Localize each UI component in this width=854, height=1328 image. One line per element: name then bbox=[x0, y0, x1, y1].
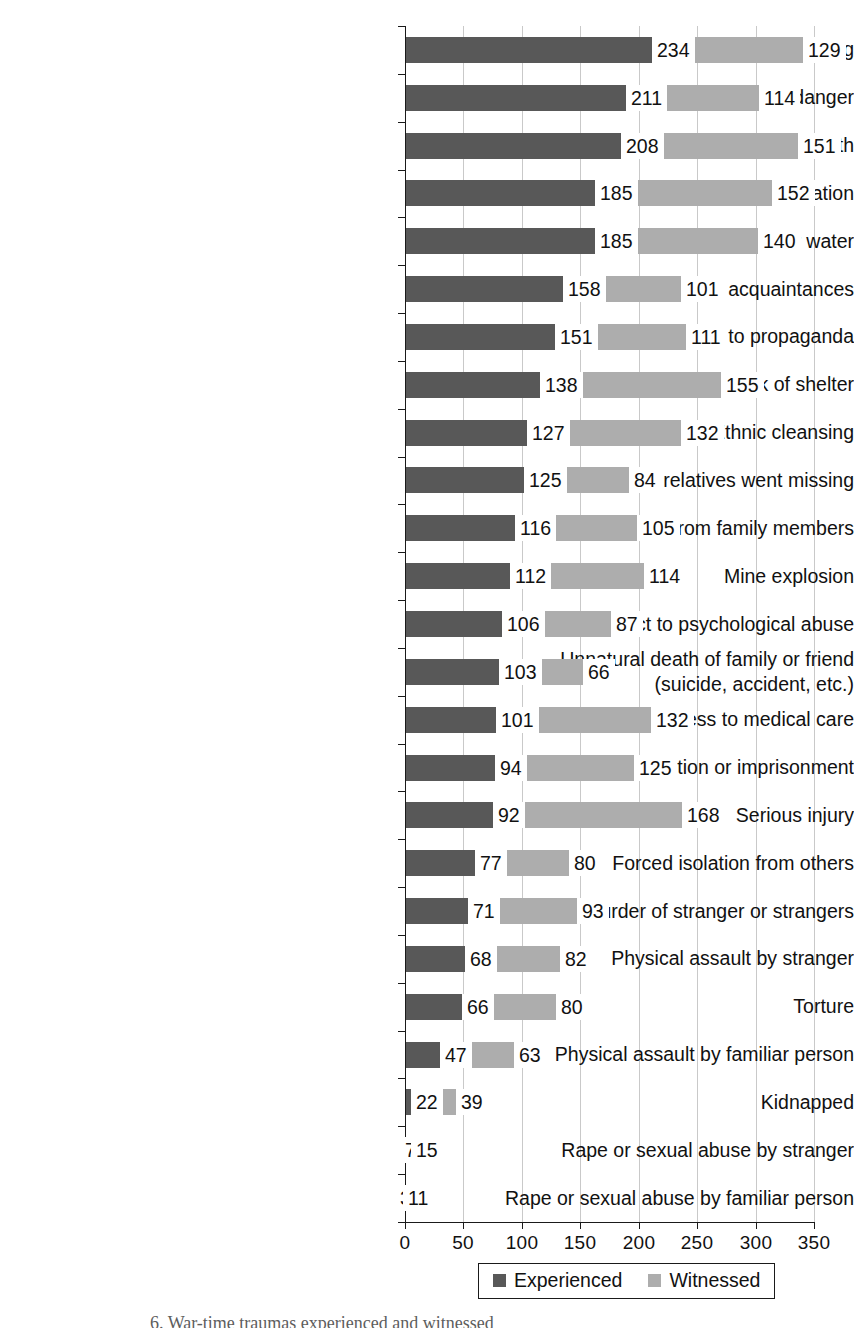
bar-segment-experienced bbox=[406, 180, 622, 206]
bar-value-label-witnessed: 140 bbox=[758, 228, 801, 254]
bar-value-label-experienced: 68 bbox=[465, 946, 497, 972]
bar-value-label-witnessed: 93 bbox=[577, 898, 609, 924]
x-axis-tick bbox=[814, 1222, 815, 1229]
x-axis-tick bbox=[639, 1222, 640, 1229]
x-axis-tick bbox=[756, 1222, 757, 1229]
bar-value-label-witnessed: 39 bbox=[456, 1089, 488, 1115]
x-axis-spine bbox=[405, 1222, 815, 1223]
bar-value-label-experienced: 138 bbox=[540, 372, 583, 398]
bar-value-label-experienced: 71 bbox=[468, 898, 500, 924]
bar-value-label-experienced: 116 bbox=[515, 515, 556, 541]
x-axis-tick bbox=[463, 1222, 464, 1229]
bar-value-label-witnessed: 11 bbox=[403, 1185, 433, 1211]
x-axis-tick-label: 350 bbox=[798, 1232, 831, 1254]
y-axis-tick bbox=[398, 839, 405, 840]
x-axis-tick-label: 50 bbox=[452, 1232, 474, 1254]
bar-value-label-witnessed: 132 bbox=[651, 707, 694, 733]
bar-value-label-experienced: 94 bbox=[495, 755, 527, 781]
y-axis-tick bbox=[398, 217, 405, 218]
bar-row-label: Rape or sexual abuse by familiar person bbox=[456, 1186, 854, 1211]
bar-value-label-experienced: 112 bbox=[510, 563, 551, 589]
bar-segment-experienced bbox=[406, 37, 679, 63]
y-axis-tick bbox=[398, 1078, 405, 1079]
x-axis-tick bbox=[522, 1222, 523, 1229]
x-axis-tick-label: 250 bbox=[681, 1232, 714, 1254]
figure-caption: 6. War-time traumas experienced and witn… bbox=[150, 1313, 750, 1328]
bar-value-label-experienced: 22 bbox=[411, 1089, 443, 1115]
bar-value-label-experienced: 101 bbox=[496, 707, 539, 733]
bar-segment-experienced bbox=[406, 133, 649, 159]
x-axis-tick-label: 0 bbox=[400, 1232, 411, 1254]
y-axis-tick bbox=[398, 265, 405, 266]
x-axis-tick-label: 300 bbox=[740, 1232, 773, 1254]
bar-value-label-witnessed: 82 bbox=[560, 946, 592, 972]
y-axis-tick bbox=[398, 1031, 405, 1032]
y-axis-tick bbox=[398, 122, 405, 123]
y-axis-tick bbox=[398, 170, 405, 171]
bar-value-label-witnessed: 87 bbox=[611, 611, 643, 637]
bar-value-label-experienced: 103 bbox=[499, 659, 542, 685]
bar-value-label-witnessed: 129 bbox=[803, 37, 846, 63]
bar-value-label-witnessed: 114 bbox=[759, 85, 800, 111]
bar-value-label-witnessed: 125 bbox=[634, 755, 677, 781]
y-axis-tick bbox=[398, 552, 405, 553]
y-axis-tick bbox=[398, 935, 405, 936]
legend-swatch-icon bbox=[648, 1274, 661, 1287]
bar-value-label-witnessed: 80 bbox=[569, 850, 601, 876]
bar-value-label-experienced: 47 bbox=[440, 1042, 472, 1068]
y-axis-tick bbox=[398, 983, 405, 984]
bar-segment-experienced bbox=[406, 85, 653, 111]
bar-value-label-witnessed: 15 bbox=[411, 1137, 443, 1163]
legend-entry: Experienced bbox=[493, 1269, 622, 1292]
y-axis-tick bbox=[398, 648, 405, 649]
legend-swatch-icon bbox=[493, 1274, 506, 1287]
x-axis-tick bbox=[697, 1222, 698, 1229]
y-axis-tick bbox=[398, 791, 405, 792]
bar-value-label-witnessed: 84 bbox=[629, 467, 661, 493]
bar-value-label-experienced: 211 bbox=[626, 85, 667, 111]
bar-value-label-experienced: 158 bbox=[563, 276, 606, 302]
x-axis-tick bbox=[580, 1222, 581, 1229]
chart-legend: ExperiencedWitnessed bbox=[478, 1263, 775, 1299]
bar-value-label-witnessed: 155 bbox=[721, 372, 764, 398]
bar-value-label-experienced: 92 bbox=[493, 802, 525, 828]
bar-value-label-experienced: 66 bbox=[462, 994, 494, 1020]
bar-value-label-experienced: 127 bbox=[527, 420, 570, 446]
bar-segment-witnessed bbox=[514, 802, 710, 828]
x-axis-tick-label: 200 bbox=[623, 1232, 656, 1254]
legend-label: Witnessed bbox=[669, 1269, 760, 1292]
y-axis-tick bbox=[398, 696, 405, 697]
y-axis-tick bbox=[398, 1222, 405, 1223]
bar-value-label-witnessed: 168 bbox=[682, 802, 725, 828]
y-axis-tick bbox=[398, 457, 405, 458]
bar-segment-experienced bbox=[406, 228, 622, 254]
bar-value-label-witnessed: 105 bbox=[637, 515, 680, 541]
bar-value-label-witnessed: 114 bbox=[644, 563, 685, 589]
bar-value-label-witnessed: 132 bbox=[681, 420, 724, 446]
y-axis-tick bbox=[398, 313, 405, 314]
y-axis-tick bbox=[398, 744, 405, 745]
y-axis-tick bbox=[398, 26, 405, 27]
bar-row-label: Rape or sexual abuse by stranger bbox=[456, 1138, 854, 1163]
bar-value-label-witnessed: 152 bbox=[772, 180, 815, 206]
y-axis-tick bbox=[398, 361, 405, 362]
bar-value-label-experienced: 185 bbox=[595, 180, 638, 206]
y-axis-tick bbox=[398, 504, 405, 505]
bar-value-label-experienced: 208 bbox=[621, 133, 664, 159]
y-axis-tick bbox=[398, 1126, 405, 1127]
x-axis-tick-label: 100 bbox=[506, 1232, 539, 1254]
bar-value-label-witnessed: 66 bbox=[583, 659, 615, 685]
x-axis-tick-label: 150 bbox=[564, 1232, 597, 1254]
bar-value-label-experienced: 106 bbox=[502, 611, 545, 637]
bar-value-label-experienced: 151 bbox=[555, 324, 598, 350]
legend-entry: Witnessed bbox=[648, 1269, 760, 1292]
x-axis-tick bbox=[405, 1222, 406, 1229]
bar-value-label-experienced: 234 bbox=[652, 37, 695, 63]
bar-value-label-witnessed: 111 bbox=[686, 324, 726, 350]
bar-value-label-witnessed: 80 bbox=[556, 994, 588, 1020]
y-axis-tick bbox=[398, 1174, 405, 1175]
bar-value-label-witnessed: 63 bbox=[514, 1042, 546, 1068]
legend-label: Experienced bbox=[514, 1269, 622, 1292]
horizontal-stacked-bar-chart: 050100150200250300350 Artillery fire or … bbox=[0, 0, 854, 1328]
y-axis-tick bbox=[398, 74, 405, 75]
